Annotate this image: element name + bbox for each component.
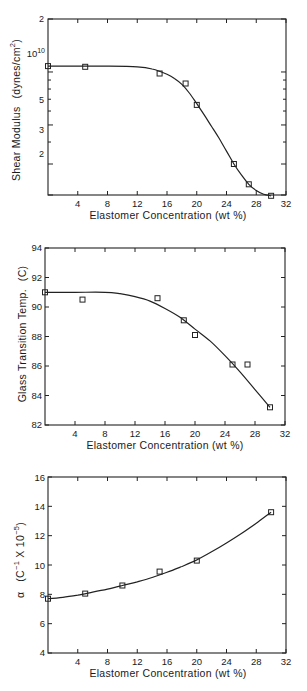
svg-text:28: 28 <box>251 198 262 209</box>
svg-text:4: 4 <box>75 656 80 667</box>
svg-text:12: 12 <box>132 198 143 209</box>
svg-text:12: 12 <box>130 428 141 439</box>
svg-text:4: 4 <box>75 198 80 209</box>
svg-text:86: 86 <box>31 360 42 371</box>
svg-text:24: 24 <box>221 198 232 209</box>
svg-text:94: 94 <box>31 242 42 253</box>
x-axis-title: Elastomer Concentration (wt %) <box>89 667 246 679</box>
data-point-marker <box>80 297 85 302</box>
plot-frame <box>48 477 286 653</box>
axis-ticks <box>48 477 286 653</box>
x-tick-labels: 4 8 12 16 20 24 28 32 <box>75 656 291 667</box>
data-point-marker <box>193 333 198 338</box>
svg-text:8: 8 <box>40 589 45 600</box>
svg-text:8: 8 <box>105 198 110 209</box>
svg-text:16: 16 <box>162 656 173 667</box>
fit-curve <box>48 512 271 599</box>
glass-transition-chart: Glass Transition Temp.(C) 82 84 86 88 90… <box>0 230 307 460</box>
svg-text:28: 28 <box>251 656 262 667</box>
x-axis-title: Elastomer Concentration (wt %) <box>86 439 243 451</box>
y-tick-label: 1010 <box>27 47 45 59</box>
shear-modulus-chart: Shear Modulus(dynes/cm2) 2 1010 5 3 2 4 … <box>0 0 307 230</box>
svg-text:90: 90 <box>31 301 42 312</box>
svg-text:82: 82 <box>31 419 42 430</box>
svg-text:28: 28 <box>250 428 261 439</box>
axis-ticks <box>48 19 286 195</box>
svg-text:32: 32 <box>280 428 291 439</box>
axis-ticks <box>45 248 285 425</box>
svg-text:4: 4 <box>40 647 45 658</box>
expansion-coefficient-chart: α(C−1 X 10−5) 4 6 8 10 12 14 16 4 8 12 1… <box>0 460 307 691</box>
x-tick-labels: 4 8 12 16 20 24 28 32 <box>72 428 290 439</box>
svg-text:8: 8 <box>105 656 110 667</box>
svg-text:6: 6 <box>40 618 45 629</box>
svg-text:12: 12 <box>132 656 143 667</box>
data-markers <box>43 290 273 410</box>
data-point-marker <box>155 296 160 301</box>
svg-text:20: 20 <box>190 428 201 439</box>
svg-text:32: 32 <box>281 198 292 209</box>
svg-text:10: 10 <box>34 560 45 571</box>
x-axis-title: Elastomer Concentration (wt %) <box>89 209 246 221</box>
y-axis-title: Shear Modulus(dynes/cm2) <box>8 39 22 181</box>
data-markers <box>46 510 274 602</box>
y-axis-title: Glass Transition Temp.(C) <box>16 266 28 403</box>
y-tick-label: 5 <box>39 95 44 105</box>
svg-text:24: 24 <box>221 656 232 667</box>
shear-modulus-plot: Shear Modulus(dynes/cm2) 2 1010 5 3 2 4 … <box>0 0 307 230</box>
svg-text:12: 12 <box>34 530 45 541</box>
svg-text:16: 16 <box>162 198 173 209</box>
svg-text:16: 16 <box>34 472 45 483</box>
y-tick-label: 3 <box>39 125 44 135</box>
svg-text:4: 4 <box>72 428 77 439</box>
plot-frame <box>48 19 286 195</box>
svg-text:14: 14 <box>34 501 45 512</box>
svg-text:20: 20 <box>191 656 202 667</box>
svg-text:16: 16 <box>160 428 171 439</box>
svg-text:24: 24 <box>220 428 231 439</box>
y-tick-labels: 4 6 8 10 12 14 16 <box>34 472 45 658</box>
svg-text:88: 88 <box>31 331 42 342</box>
y-tick-label: 2 <box>39 14 44 24</box>
fit-curve <box>45 292 270 407</box>
fit-curve <box>48 66 271 196</box>
data-point-marker <box>183 81 188 86</box>
svg-text:84: 84 <box>31 390 42 401</box>
expansion-coefficient-plot: α(C−1 X 10−5) 4 6 8 10 12 14 16 4 8 12 1… <box>0 460 307 691</box>
svg-text:8: 8 <box>102 428 107 439</box>
data-point-marker <box>245 362 250 367</box>
data-markers <box>46 64 274 199</box>
x-tick-labels: 4 8 12 16 20 24 28 32 <box>75 198 291 209</box>
glass-transition-plot: Glass Transition Temp.(C) 82 84 86 88 90… <box>0 230 307 460</box>
plot-frame <box>45 248 285 425</box>
data-point-marker <box>157 569 162 574</box>
y-axis-title: α(C−1 X 10−5) <box>12 522 26 598</box>
y-tick-labels: 82 84 86 88 90 92 94 <box>31 242 42 430</box>
svg-text:92: 92 <box>31 272 42 283</box>
svg-text:20: 20 <box>191 198 202 209</box>
svg-text:32: 32 <box>281 656 292 667</box>
data-point-marker <box>83 64 88 69</box>
y-tick-label: 2 <box>39 149 44 159</box>
